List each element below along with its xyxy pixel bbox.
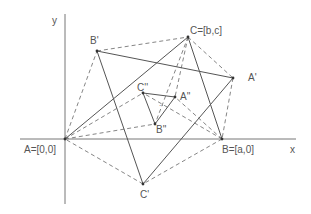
label-A2: A'': [180, 91, 191, 102]
x-axis-label: x: [290, 144, 295, 155]
label-B1: B': [90, 35, 99, 46]
segment-C2-A2: [143, 93, 175, 97]
label-B: B=[a,0]: [222, 144, 254, 155]
segment-A2-B2: [155, 97, 175, 124]
segment-C1-A: [65, 139, 143, 184]
dashed-construction-lines: [65, 37, 233, 184]
label-B2: B'': [156, 124, 167, 135]
label-C: C=[b,c]: [190, 25, 222, 36]
y-axis-label: y: [52, 15, 57, 26]
segment-B1-A1: [97, 51, 233, 78]
label-C2: C'': [137, 82, 148, 93]
centroid-tick-mark: ··: [159, 102, 164, 109]
segment-B-C1: [143, 139, 222, 184]
segment-A1-B: [222, 78, 233, 139]
label-A: A=[0,0]: [24, 144, 56, 155]
vertex-points: [64, 36, 235, 186]
point-A2: [174, 96, 177, 99]
segment-A-C2: [65, 93, 143, 139]
geometry-diagram: x y A=[0,0]B=[a,0]C=[b,c]A'B'C'A''B''C''…: [0, 0, 311, 214]
point-B: [221, 138, 224, 141]
point-A: [64, 138, 67, 141]
segment-B1-C1: [97, 51, 143, 184]
point-A1: [232, 77, 235, 80]
point-B1: [96, 50, 99, 53]
segment-B2-C2: [143, 93, 155, 124]
point-C: [187, 36, 190, 39]
point-C1: [142, 183, 145, 186]
solid-triangle-edges: [65, 37, 233, 184]
label-A1: A': [248, 72, 257, 83]
vertex-labels: A=[0,0]B=[a,0]C=[b,c]A'B'C'A''B''C'': [24, 25, 257, 200]
label-C1: C': [140, 189, 149, 200]
segment-A-C: [65, 37, 188, 139]
